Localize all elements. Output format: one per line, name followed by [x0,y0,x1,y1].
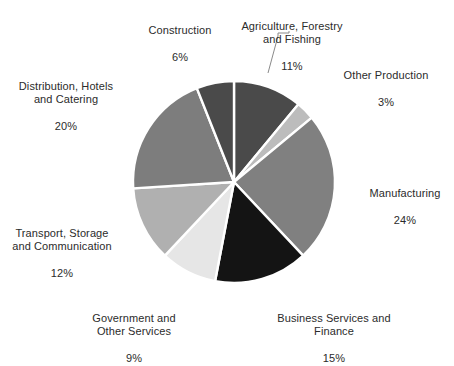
pie-label-other-production-percent: 3% [322,96,450,110]
pie-label-other-production: Other Production 3% [322,55,450,123]
pie-label-manufacturing-percent: 24% [358,214,452,228]
pie-label-construction-name: Construction [120,24,240,38]
pie-label-distribution: Distribution, Hotels and Catering 20% [2,66,130,147]
pie-label-government: Government and Other Services 9% [74,298,194,366]
pie-label-transport-name: Transport, Storage and Communication [0,227,124,254]
pie-label-government-percent: 9% [74,352,194,366]
pie-label-government-name: Government and Other Services [74,312,194,339]
pie-slice-group: Agriculture, Forestry and Fishing 11%Oth… [133,81,335,283]
pie-label-agriculture-name: Agriculture, Forestry and Fishing [232,20,352,47]
pie-label-business-services: Business Services and Finance 15% [268,298,400,366]
pie-label-manufacturing-name: Manufacturing [358,187,452,201]
pie-label-construction: Construction 6% [120,10,240,78]
pie-label-construction-percent: 6% [120,51,240,65]
pie-label-business-services-percent: 15% [268,352,400,366]
pie-label-distribution-percent: 20% [2,120,130,134]
pie-label-other-production-name: Other Production [322,69,450,83]
pie-label-transport: Transport, Storage and Communication 12% [0,213,124,294]
pie-label-transport-percent: 12% [0,267,124,281]
pie-label-business-services-name: Business Services and Finance [268,312,400,339]
pie-label-distribution-name: Distribution, Hotels and Catering [2,80,130,107]
pie-label-manufacturing: Manufacturing 24% [358,173,452,241]
